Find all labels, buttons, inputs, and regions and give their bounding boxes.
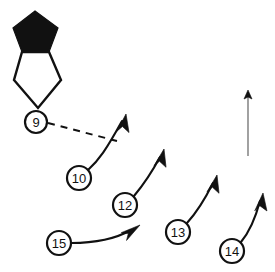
leader-line-15 — [71, 230, 131, 243]
callout-10-label: 10 — [72, 171, 86, 186]
callout-12[interactable]: 12 — [113, 193, 137, 217]
arrow-head-15-icon — [121, 225, 141, 241]
line-drawing: 9 10 12 13 14 15 — [0, 0, 275, 272]
callout-13-label: 13 — [171, 225, 185, 240]
callout-14-label: 14 — [225, 244, 239, 259]
leader-line-10 — [88, 121, 122, 170]
callout-9-label: 9 — [32, 115, 39, 130]
callout-13[interactable]: 13 — [166, 220, 190, 244]
callout-14[interactable]: 14 — [220, 239, 244, 263]
callout-15-label: 15 — [52, 236, 66, 251]
outline-pentagon — [14, 52, 61, 108]
figure-canvas: 9 10 12 13 14 15 — [0, 0, 275, 272]
callout-9[interactable]: 9 — [25, 111, 47, 133]
callout-15[interactable]: 15 — [47, 231, 71, 255]
filled-pentagon — [13, 11, 58, 52]
leader-line-9 — [48, 123, 117, 141]
arrow-head-12-icon — [154, 148, 171, 170]
callout-12-label: 12 — [118, 198, 132, 213]
callout-10[interactable]: 10 — [67, 166, 91, 190]
